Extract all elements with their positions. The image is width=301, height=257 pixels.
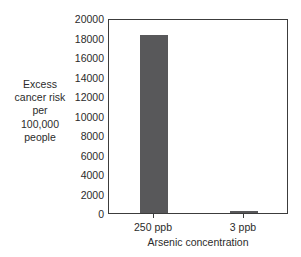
x-axis-title: Arsenic concentration [108, 236, 288, 249]
plot-area-frame [108, 19, 288, 214]
y-axis-tick-label: 8000 [58, 131, 104, 142]
x-axis-tick-mark [153, 214, 154, 218]
bar [230, 211, 258, 213]
y-axis-tick-label: 10000 [58, 112, 104, 123]
y-axis-tick-label: 0 [58, 209, 104, 220]
y-axis-tick-label: 16000 [58, 53, 104, 64]
x-axis-category-label: 3 ppb [198, 221, 288, 233]
y-axis-tick-label: 2000 [58, 190, 104, 201]
y-axis-tick-label: 20000 [58, 14, 104, 25]
x-axis-tick-mark [243, 214, 244, 218]
y-axis-tick-label: 12000 [58, 92, 104, 103]
y-axis-tick-labels: 2000018000160001400012000100008000600040… [58, 19, 104, 214]
y-axis-tick-label: 14000 [58, 73, 104, 84]
y-axis-tick-label: 6000 [58, 151, 104, 162]
plot-area [109, 20, 287, 213]
bar-chart: Excesscancer riskper100,000people 200001… [0, 0, 301, 257]
x-axis-category-label: 250 ppb [108, 221, 198, 233]
bar [140, 35, 168, 213]
y-axis-tick-label: 18000 [58, 34, 104, 45]
y-axis-tick-label: 4000 [58, 170, 104, 181]
